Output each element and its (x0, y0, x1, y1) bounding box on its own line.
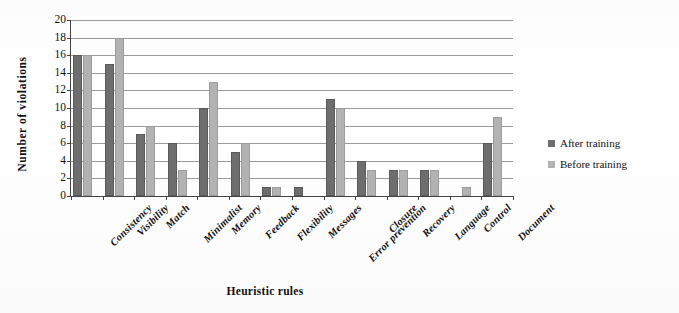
bar (83, 55, 92, 196)
y-tick-label: 16 (55, 49, 67, 61)
y-tick-label: 2 (60, 173, 66, 185)
bar (367, 170, 376, 196)
y-tick-label: 4 (60, 155, 66, 167)
bar (136, 134, 145, 196)
bar (115, 38, 124, 196)
bar (420, 170, 429, 196)
bar (294, 187, 303, 196)
x-tick-mark (103, 196, 104, 200)
bar (199, 108, 208, 196)
bar (336, 108, 345, 196)
x-tick-mark (134, 196, 135, 200)
bar-group (103, 20, 135, 196)
bar-group (481, 20, 513, 196)
bar (399, 170, 408, 196)
legend-swatch-after-training (548, 140, 555, 147)
bar (483, 143, 492, 196)
legend-label-after-training: After training (560, 137, 620, 149)
x-tick-mark (197, 196, 198, 200)
y-tick-label: 12 (55, 85, 67, 97)
legend-swatch-before-training (548, 161, 555, 168)
y-tick-label: 6 (60, 137, 66, 149)
x-tick-mark (450, 196, 451, 200)
x-tick-mark (324, 196, 325, 200)
bar-group (292, 20, 324, 196)
bar-group (260, 20, 292, 196)
bar-group (197, 20, 229, 196)
x-tick-mark (71, 196, 72, 200)
bar (389, 170, 398, 196)
bar (493, 117, 502, 196)
bar-group (355, 20, 387, 196)
x-tick-mark (418, 196, 419, 200)
bar-group (71, 20, 103, 196)
x-axis-category-label: Document (516, 202, 557, 243)
y-tick-label: 18 (55, 32, 67, 44)
x-axis-category-label: Error prevention (367, 202, 429, 264)
x-tick-mark (260, 196, 261, 200)
x-axis-title: Heuristic rules (150, 285, 380, 297)
bar (430, 170, 439, 196)
bar (326, 99, 335, 196)
bar-group (387, 20, 419, 196)
bar (241, 143, 250, 196)
bar-group (229, 20, 261, 196)
x-tick-mark (166, 196, 167, 200)
bar-group (450, 20, 482, 196)
x-tick-mark (355, 196, 356, 200)
bar (357, 161, 366, 196)
bar-group (418, 20, 450, 196)
y-tick-label: 8 (60, 120, 66, 132)
bar (272, 187, 281, 196)
y-tick-label: 20 (55, 14, 67, 26)
legend-item-before-training: Before training (548, 158, 627, 170)
bar-group (166, 20, 198, 196)
y-tick-label: 0 (60, 190, 66, 202)
bar-chart-figure: Number of violations 02468101214161820 H… (0, 0, 679, 313)
plot-area: 02468101214161820 (70, 20, 513, 197)
x-tick-mark (387, 196, 388, 200)
bar (209, 82, 218, 196)
x-tick-mark (292, 196, 293, 200)
y-tick-label: 14 (55, 67, 67, 79)
bar (73, 55, 82, 196)
bar-group (134, 20, 166, 196)
bar (262, 187, 271, 196)
bar (178, 170, 187, 196)
chart-legend: After training Before training (548, 137, 627, 179)
x-tick-mark (229, 196, 230, 200)
bar (231, 152, 240, 196)
bar (462, 187, 471, 196)
bar (146, 126, 155, 196)
x-tick-mark (513, 196, 514, 200)
legend-label-before-training: Before training (560, 158, 627, 170)
y-axis-title: Number of violations (16, 29, 28, 199)
bar (168, 143, 177, 196)
legend-item-after-training: After training (548, 137, 627, 149)
bar-group (324, 20, 356, 196)
y-tick-label: 10 (55, 102, 67, 114)
bar (105, 64, 114, 196)
x-tick-mark (481, 196, 482, 200)
